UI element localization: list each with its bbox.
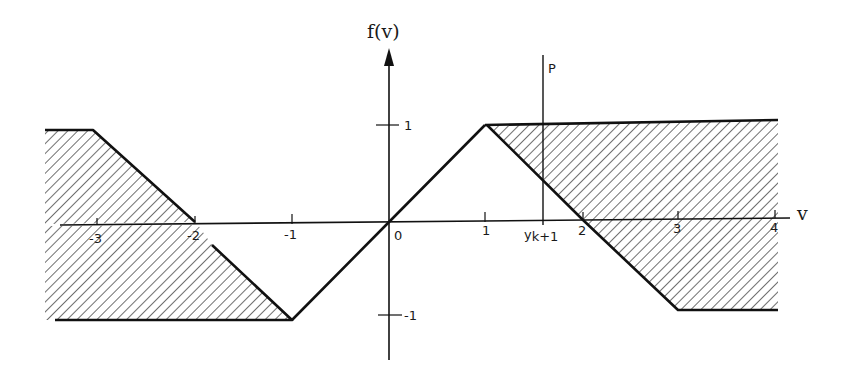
y-tick-label: -1 [404, 308, 417, 323]
x-axis-label: v [796, 202, 808, 224]
vertical-line-label: P [548, 61, 556, 76]
x-tick-label: -3 [89, 231, 102, 246]
y-tick-label: 1 [404, 118, 412, 133]
region-lower-left [45, 225, 292, 320]
hatched-regions [45, 120, 778, 320]
x-tick-label: -2 [187, 228, 200, 243]
region-upper-left [45, 130, 195, 224]
origin-label: 0 [394, 228, 402, 243]
x-tick-label: 3 [673, 221, 681, 236]
x-tick-label: 4 [770, 220, 778, 235]
x-tick-label: 2 [578, 223, 586, 238]
x-tick-label: -1 [284, 227, 297, 242]
y-axis-label: f(v) [367, 20, 400, 42]
special-tick-label: yk+1 [524, 227, 558, 244]
diagram-canvas: f(v) v P 0 -3 -2 -1 1 2 3 4 1 -1 yk+1 [0, 0, 848, 381]
x-tick-label: 1 [482, 223, 490, 238]
y-axis-arrow-icon [384, 48, 394, 66]
